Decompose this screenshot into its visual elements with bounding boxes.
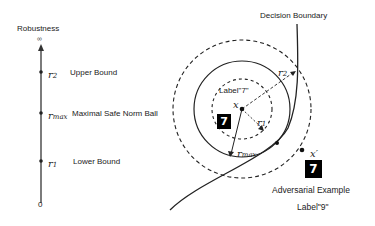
r2-label: r2 (278, 62, 287, 80)
center-class-label: Label"7" (219, 86, 249, 95)
upper-bound-label: Upper Bound (70, 68, 117, 77)
decision-boundary-label: Decision Boundary (260, 11, 327, 20)
r1-mark: r1 (48, 153, 57, 171)
adversarial-example-label: Adversarial Example (272, 185, 350, 195)
axis-arrow-icon (38, 44, 44, 51)
rmax-tick (39, 111, 43, 115)
r2-tick (39, 70, 43, 74)
rmax-label: rmax (237, 143, 257, 161)
original-digit-image: 7 (217, 114, 231, 129)
lower-bound-label: Lower Bound (73, 157, 120, 166)
tangent-point (275, 141, 279, 145)
r1-tick (39, 159, 43, 163)
adversarial-class-label: Label"9" (297, 202, 329, 212)
r2-mark: r2 (48, 64, 57, 82)
zero-label: 0 (38, 200, 42, 209)
x-prime-label: x′ (310, 148, 318, 159)
rmax-mark: rmax (48, 105, 68, 123)
infinity-label: ∞ (37, 35, 42, 42)
adversarial-digit-image: 7 (305, 160, 322, 178)
r1-label: r1 (257, 112, 266, 130)
point-x-prime (300, 148, 305, 153)
point-x (240, 107, 245, 112)
r2-arrowhead-icon (290, 71, 296, 76)
center-x-label: x (233, 99, 239, 110)
axis-title: Robustness (17, 24, 59, 33)
decision-boundary-curve (170, 24, 298, 210)
maximal-safe-norm-ball-label: Maximal Safe Norm Ball (72, 109, 158, 118)
